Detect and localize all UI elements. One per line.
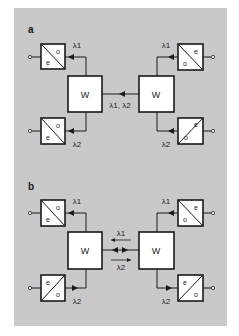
electrical-label: e (183, 279, 187, 286)
panel-a-converter-top-left: o e λ1 (28, 41, 86, 76)
optical-label: o (56, 291, 60, 298)
panel-b-converter-bottom-right: λ2 e o (157, 269, 215, 306)
arrow-right-icon (72, 285, 78, 291)
port-icon (211, 211, 214, 214)
arrow-left-icon (112, 247, 118, 253)
optical-label: o (194, 291, 198, 298)
wavelength-label: λ2 (73, 297, 82, 306)
panel-a-label: a (28, 24, 34, 35)
wdm-diagram: a W W λ1, λ2 o e λ1 (0, 0, 239, 336)
arrow-left-icon (168, 128, 174, 134)
arrow-right-icon (122, 247, 128, 253)
wdm-left-label: W (81, 90, 90, 100)
electrical-label: e (194, 48, 198, 55)
electrical-label: e (46, 279, 50, 286)
arrow-left-icon (68, 128, 74, 134)
panel-b-converter-bottom-left: e o λ2 (28, 269, 86, 306)
wdm-left-label: W (81, 246, 90, 256)
optical-label: o (183, 216, 187, 223)
panel-a: a W W λ1, λ2 o e λ1 (28, 24, 215, 149)
optical-label: o (184, 134, 188, 141)
port-icon (211, 286, 214, 289)
arrow-right-icon (127, 258, 131, 262)
electrical-label: e (46, 134, 50, 141)
wdm-right-label: W (152, 246, 161, 256)
port-icon (211, 129, 214, 132)
arrow-left-icon (68, 210, 74, 216)
port-icon (211, 55, 214, 58)
wavelength-label: λ1 (162, 197, 171, 206)
electrical-label: e (194, 121, 198, 128)
wavelength-label: λ2 (162, 297, 171, 306)
optical-label: o (183, 60, 187, 67)
panel-a-converter-top-right: λ1 e o (157, 41, 215, 76)
arrow-left-icon (68, 54, 74, 60)
link-wavelength-top-label: λ1 (117, 229, 126, 238)
panel-b-label: b (28, 181, 34, 192)
optical-label: o (56, 204, 60, 211)
panel-b-converter-top-left: o e λ1 (28, 197, 86, 232)
electrical-label: e (46, 59, 50, 66)
wavelength-label: λ1 (162, 41, 171, 50)
electrical-label: e (46, 216, 50, 223)
panel-a-link: λ1, λ2 (102, 91, 139, 110)
arrow-left-icon (119, 91, 125, 97)
arrow-left-icon (111, 238, 115, 242)
link-wavelength-bottom-label: λ2 (117, 263, 126, 272)
panel-a-wdm-left: W (68, 76, 102, 112)
optical-label: o (56, 48, 60, 55)
panel-a-wdm-right: W (139, 76, 174, 112)
panel-b-wdm-right: W (139, 232, 174, 269)
wavelength-label: λ2 (162, 140, 171, 149)
panel-b-converter-top-right: λ1 e o (157, 197, 215, 232)
arrow-left-icon (168, 54, 174, 60)
panel-a-converter-bottom-left: o e λ2 (28, 112, 86, 149)
panel-b-link: λ1 λ2 (102, 229, 139, 272)
port-icon (28, 129, 31, 132)
port-icon (28, 286, 31, 289)
wavelength-label: λ1 (73, 197, 82, 206)
wavelength-label: λ1 (73, 41, 82, 50)
link-wavelength-label: λ1, λ2 (109, 101, 131, 110)
panel-b-wdm-left: W (68, 232, 102, 269)
wavelength-label: λ2 (73, 140, 82, 149)
arrow-right-icon (166, 285, 172, 291)
panel-a-converter-bottom-right: λ2 e o (157, 112, 215, 149)
wdm-right-label: W (152, 90, 161, 100)
arrow-left-icon (168, 210, 174, 216)
port-icon (28, 55, 31, 58)
panel-b: b W W λ1 λ2 o e (28, 181, 215, 306)
electrical-label: e (194, 204, 198, 211)
port-icon (28, 211, 31, 214)
optical-label: o (56, 122, 60, 129)
